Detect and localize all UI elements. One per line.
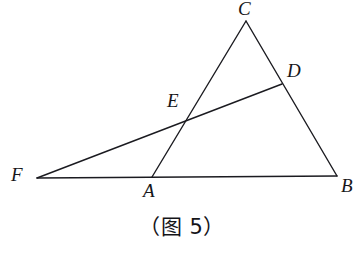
vertex-label-F: F	[11, 165, 23, 184]
figure-caption: （图 5）	[0, 213, 364, 241]
segment-CB	[246, 21, 337, 176]
vertex-label-E: E	[167, 91, 179, 110]
figure-strokes	[37, 21, 337, 178]
vertex-label-B: B	[341, 176, 353, 195]
vertex-label-D: D	[287, 61, 301, 80]
vertex-label-A: A	[143, 181, 155, 200]
geometry-figure: C D E F A B （图 5）	[0, 0, 364, 254]
segment-FB	[37, 176, 337, 178]
vertex-label-C: C	[238, 0, 251, 18]
